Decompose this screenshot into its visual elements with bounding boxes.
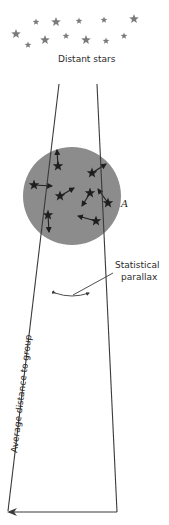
distant-star-icon bbox=[76, 18, 83, 24]
distant-star-icon bbox=[103, 38, 110, 44]
average-distance-label: Average distance to group bbox=[9, 334, 33, 453]
distant-star-icon bbox=[51, 17, 61, 26]
distant-star-icon bbox=[101, 17, 108, 23]
distant-star-icon bbox=[25, 42, 32, 48]
distant-star-field bbox=[11, 14, 139, 48]
distant-stars-label: Distant stars bbox=[58, 54, 116, 64]
distant-star-icon bbox=[81, 35, 91, 44]
distant-star-icon bbox=[63, 33, 70, 39]
right-sight-line bbox=[97, 84, 117, 512]
distant-star-icon bbox=[11, 29, 21, 38]
distant-star-icon bbox=[121, 33, 128, 39]
distant-star-icon bbox=[40, 35, 50, 44]
parallax-angle-arc bbox=[55, 293, 89, 296]
parallax-label-line2: parallax bbox=[121, 272, 158, 282]
cluster-label-a: A bbox=[120, 198, 128, 209]
star-cluster-disk bbox=[23, 147, 121, 245]
statistical-parallax-diagram: Distant stars Statistical parallax A Ave… bbox=[0, 0, 169, 525]
parallax-label-line1: Statistical bbox=[115, 260, 159, 270]
distant-star-icon bbox=[33, 19, 40, 25]
distant-star-icon bbox=[129, 14, 139, 23]
